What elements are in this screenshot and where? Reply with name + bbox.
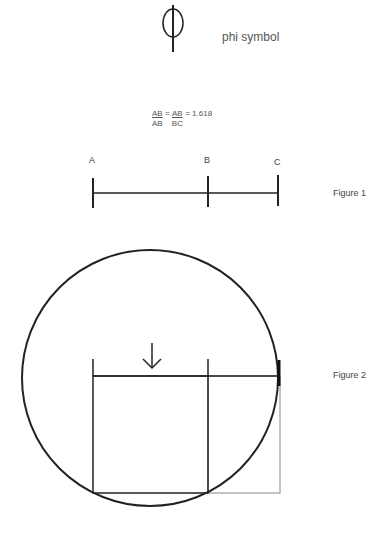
figure-1-segment (93, 175, 278, 208)
figure-2-construction (22, 250, 280, 506)
extension-rectangle (208, 376, 280, 493)
point-label-a: A (89, 155, 95, 165)
point-label-b: B (204, 155, 210, 165)
diagram-canvas (0, 0, 391, 543)
fraction-2-denominator: BC (172, 119, 183, 128)
golden-ratio-formula: AB AB = AB BC = 1.618 (152, 109, 212, 129)
fraction-2-numerator: AB (172, 109, 183, 118)
point-label-c: C (274, 157, 281, 167)
equals-sign: = (165, 109, 170, 118)
phi-symbol-icon (163, 5, 183, 52)
unit-square (93, 376, 208, 493)
figure-1-caption: Figure 1 (333, 188, 366, 198)
fraction-1-denominator: AB (152, 119, 163, 128)
arrow-down-icon (143, 343, 161, 368)
equals-sign: = (185, 109, 190, 118)
fraction-1-numerator: AB (152, 109, 163, 118)
golden-circle (22, 250, 278, 506)
figure-2-caption: Figure 2 (333, 370, 366, 380)
golden-ratio-value: 1.618 (192, 109, 212, 118)
phi-symbol-label: phi symbol (222, 30, 279, 44)
